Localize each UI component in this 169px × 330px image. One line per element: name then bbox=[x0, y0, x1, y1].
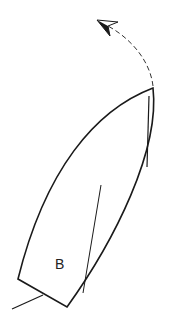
boat-diagram: B bbox=[0, 0, 169, 330]
turn-arrow-path bbox=[108, 26, 153, 86]
boom-line bbox=[83, 185, 101, 293]
boat-label: B bbox=[55, 256, 64, 272]
sail-line bbox=[147, 96, 149, 167]
tiller-line bbox=[12, 295, 43, 309]
